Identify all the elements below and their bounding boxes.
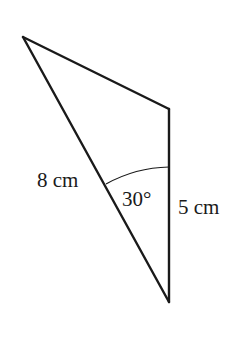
label-5cm: 5 cm [178,195,219,219]
label-angle-30: 30° [122,187,151,211]
top-edge [23,37,169,109]
label-8cm: 8 cm [37,168,78,192]
geometry-diagram: 8 cm 30° 5 cm [0,0,249,355]
angle-arc [106,167,169,184]
